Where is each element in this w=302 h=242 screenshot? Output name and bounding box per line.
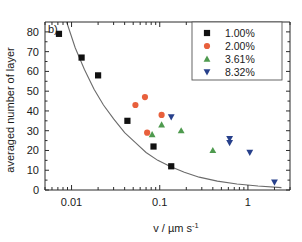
data-point-1-00 [168, 163, 174, 169]
panel-label: b) [48, 23, 58, 35]
legend-label: 3.61% [225, 53, 255, 65]
x-tick-label: 0.01 [61, 196, 82, 208]
data-point-2-00 [132, 102, 138, 108]
y-axis-label: averaged number of layer [4, 47, 16, 173]
data-point-1-00 [78, 54, 84, 60]
y-tick-label: 60 [27, 65, 39, 77]
x-tick-label: 1 [245, 196, 251, 208]
data-point-2-00 [159, 112, 165, 118]
legend-label: 1.00% [225, 27, 255, 39]
data-point-1-00 [95, 72, 101, 78]
y-tick-label: 10 [27, 164, 39, 176]
legend-marker-0 [204, 30, 210, 36]
legend: 1.00%2.00%3.61%8.32% [192, 22, 282, 80]
figure-panel-b: 010203040506070800.010.11 1.00%2.00%3.61… [0, 0, 302, 242]
x-tick-label: 0.1 [152, 196, 167, 208]
data-point-1-00 [150, 143, 156, 149]
legend-marker-1 [204, 43, 210, 49]
y-tick-label: 50 [27, 85, 39, 97]
y-tick-label: 0 [33, 184, 39, 196]
y-tick-label: 40 [27, 105, 39, 117]
scatter-plot: 010203040506070800.010.11 1.00%2.00%3.61… [0, 0, 302, 242]
y-tick-label: 20 [27, 144, 39, 156]
data-point-2-00 [144, 130, 150, 136]
data-point-1-00 [124, 118, 130, 124]
y-tick-label: 80 [27, 26, 39, 38]
data-point-2-00 [142, 94, 148, 100]
legend-label: 2.00% [225, 40, 255, 52]
x-axis-label: v / µm s-1 [153, 221, 198, 234]
y-tick-label: 70 [27, 46, 39, 58]
y-tick-label: 30 [27, 125, 39, 137]
legend-label: 8.32% [225, 66, 255, 78]
